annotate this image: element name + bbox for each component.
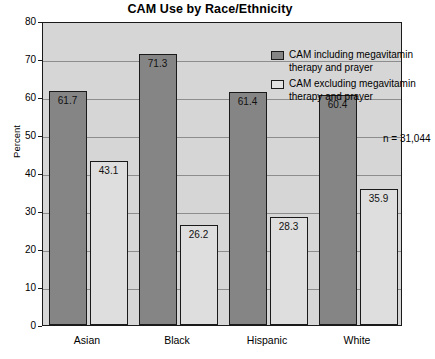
y-tick-label: 50	[8, 131, 36, 141]
legend-item-included: CAM including megavitamin therapy and pr…	[271, 49, 435, 74]
legend-label-excluded: CAM excluding megavitamin therapy and pr…	[289, 78, 416, 103]
bar-value-label: 61.4	[230, 96, 266, 107]
sample-size-annotation: n = 31,044	[383, 133, 431, 144]
legend-label-included: CAM including megavitamin therapy and pr…	[289, 49, 413, 74]
y-tick-label: 20	[8, 245, 36, 255]
bar-hispanic-excluded: 28.3	[270, 217, 308, 325]
y-tick-mark	[38, 326, 42, 327]
y-tick-label: 10	[8, 283, 36, 293]
bar-black-excluded: 26.2	[180, 225, 218, 325]
bar-value-label: 71.3	[140, 58, 176, 69]
bar-value-label: 43.1	[91, 165, 127, 176]
bar-white-excluded: 35.9	[360, 189, 398, 325]
y-tick-label: 0	[8, 321, 36, 331]
bar-hispanic-included: 61.4	[229, 92, 267, 325]
y-tick-label: 80	[8, 17, 36, 27]
x-tick-label-white: White	[312, 334, 402, 346]
bar-black-included: 71.3	[139, 54, 177, 325]
bar-value-label: 26.2	[181, 229, 217, 240]
y-tick-label: 60	[8, 93, 36, 103]
bar-value-label: 35.9	[361, 193, 397, 204]
bar-white-included: 60.4	[319, 95, 357, 325]
bar-value-label: 61.7	[50, 95, 86, 106]
chart-title: CAM Use by Race/Ethnicity	[42, 2, 378, 16]
legend-item-excluded: CAM excluding megavitamin therapy and pr…	[271, 78, 435, 103]
chart-legend: CAM including megavitamin therapy and pr…	[271, 49, 435, 107]
legend-swatch-excluded	[271, 80, 284, 89]
y-tick-label: 30	[8, 207, 36, 217]
legend-swatch-included	[271, 51, 284, 60]
plot-area: 61.743.171.326.261.428.360.435.9 CAM inc…	[42, 22, 402, 326]
y-tick-label: 70	[8, 55, 36, 65]
x-tick-label-black: Black	[132, 334, 222, 346]
bar-value-label: 28.3	[271, 221, 307, 232]
bar-asian-excluded: 43.1	[90, 161, 128, 325]
x-tick-label-hispanic: Hispanic	[222, 334, 312, 346]
x-tick-label-asian: Asian	[42, 334, 132, 346]
y-tick-label: 40	[8, 169, 36, 179]
bar-asian-included: 61.7	[49, 91, 87, 325]
